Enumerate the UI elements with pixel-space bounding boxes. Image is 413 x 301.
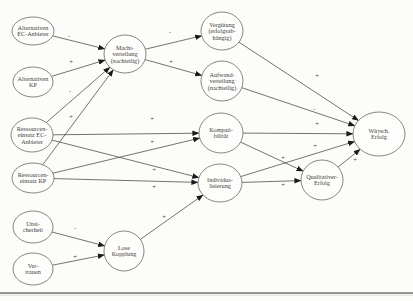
- edge-lose-kopplung-to-individualisierung: [140, 195, 203, 239]
- edge-ressourceneinsatz-ec-anbieter-to-kompatibilitaet: [53, 133, 199, 135]
- node-alternativen-ec-anbieter: AlternativenEC-Anbieter: [12, 17, 54, 45]
- sign-verguetung-to-wirtsch-erfolg: +: [315, 72, 319, 79]
- nodes-layer: AlternativenEC-AnbieterAlternativenKPRes…: [11, 12, 405, 285]
- node-vertrauen: Ver-trauen: [13, 253, 53, 285]
- edge-machtverteilung-to-aufwandverteilung: [145, 60, 202, 76]
- sign-alternativen-ec-anbieter-to-machtverteilung: -: [68, 32, 70, 39]
- path-diagram: AlternativenEC-AnbieterAlternativenKPRes…: [0, 0, 413, 301]
- edge-alternativen-kp-to-machtverteilung: [52, 60, 106, 76]
- sign-machtverteilung-to-aufwandverteilung: +: [169, 58, 173, 65]
- node-individualisierung: Individua-lisierung: [198, 164, 242, 202]
- footer-layer: [0, 293, 413, 295]
- sign-individualisierung-to-wirtsch-erfolg: +: [313, 142, 317, 149]
- node-verguetung: Vergütung(erfolgsab-hängig): [201, 12, 243, 50]
- sign-ressourceneinsatz-kp-to-machtverteilung: +: [69, 113, 73, 120]
- edge-verguetung-to-wirtsch-erfolg: [239, 42, 359, 120]
- sign-machtverteilung-to-verguetung: -: [169, 28, 171, 35]
- node-lose-kopplung: LoseKopplung: [104, 231, 144, 271]
- edge-individualisierung-to-qualitativer-erfolg: [242, 181, 301, 183]
- edge-ressourceneinsatz-kp-to-machtverteilung: [43, 70, 114, 165]
- sign-alternativen-kp-to-machtverteilung: +: [69, 58, 73, 65]
- sign-individualisierung-to-qualitativer-erfolg: +: [281, 181, 285, 188]
- sign-lose-kopplung-to-individualisierung: +: [162, 213, 166, 220]
- node-alternativen-kp: AlternativenKP: [13, 67, 53, 97]
- edge-ressourceneinsatz-kp-to-kompatibilitaet: [53, 138, 200, 173]
- edge-ressourceneinsatz-kp-to-individualisierung: [54, 179, 198, 183]
- sign-vertrauen-to-lose-kopplung: +: [73, 253, 77, 260]
- node-aufwandverteilung-label: Aufwand-verteilung(nachteilig): [208, 71, 237, 92]
- sign-ressourceneinsatz-kp-to-kompatibilitaet: +: [150, 138, 154, 145]
- node-individualisierung-label: Individua-lisierung: [207, 176, 233, 190]
- sign-unsicherheit-to-lose-kopplung: -: [74, 224, 76, 231]
- node-alternativen-ec-anbieter-label: AlternativenEC-Anbieter: [17, 24, 49, 38]
- node-ressourceneinsatz-kp: Ressourcen-einsatz KP: [12, 163, 54, 193]
- sign-qualitativer-erfolg-to-wirtsch-erfolg: +: [353, 156, 357, 163]
- sign-aufwandverteilung-to-wirtsch-erfolg: -: [313, 105, 315, 112]
- edge-unsicherheit-to-lose-kopplung: [52, 232, 105, 246]
- edge-qualitativer-erfolg-to-wirtsch-erfolg: [338, 149, 360, 167]
- edges-layer: [43, 36, 360, 265]
- edge-vertrauen-to-lose-kopplung: [52, 255, 104, 265]
- sign-kompatibilitaet-to-wirtsch-erfolg: +: [315, 120, 319, 127]
- edge-ressourceneinsatz-ec-anbieter-to-individualisierung: [52, 140, 199, 178]
- edge-alternativen-ec-anbieter-to-machtverteilung: [53, 36, 105, 49]
- node-machtverteilung: Macht-verteilung(nachteilig): [104, 35, 146, 73]
- node-aufwandverteilung: Aufwand-verteilung(nachteilig): [201, 61, 243, 101]
- node-wirtsch-erfolg: Wirtsch.Erfolg: [353, 112, 405, 156]
- node-ressourceneinsatz-ec-anbieter: Ressourcen-einsatz EC-Anbieter: [11, 118, 53, 152]
- node-wirtsch-erfolg-label: Wirtsch.Erfolg: [369, 127, 390, 141]
- scanned-page: AlternativenEC-AnbieterAlternativenKPRes…: [0, 0, 413, 301]
- sign-ressourceneinsatz-kp-to-individualisierung: +: [152, 183, 156, 190]
- sign-ressourceneinsatz-ec-anbieter-to-machtverteilung: -: [69, 87, 71, 94]
- edge-machtverteilung-to-verguetung: [145, 36, 201, 49]
- node-ressourceneinsatz-ec-anbieter-label: Ressourcen-einsatz EC-Anbieter: [17, 125, 48, 145]
- sign-kompatibilitaet-to-qualitativer-erfolg: +: [281, 154, 285, 161]
- edge-kompatibilitaet-to-wirtsch-erfolg: [243, 133, 353, 134]
- sign-ressourceneinsatz-ec-anbieter-to-kompatibilitaet: +: [150, 115, 154, 122]
- node-unsicherheit: Unsi-cherheit: [13, 211, 53, 243]
- node-kompatibilitaet: Kompati-bilität: [199, 113, 243, 153]
- sign-ressourceneinsatz-ec-anbieter-to-individualisierung: +: [152, 166, 156, 173]
- node-qualitativer-erfolg: Qualitativer-Erfolg: [301, 160, 343, 200]
- node-ressourceneinsatz-kp-label: Ressourcen-einsatz KP: [18, 171, 49, 185]
